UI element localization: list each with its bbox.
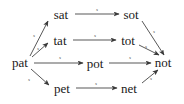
node-not[interactable]: not: [155, 56, 172, 69]
edge-label-pat-pot: s: [59, 55, 61, 60]
graph-edges-canvas: [0, 0, 184, 104]
node-sat[interactable]: sat: [54, 8, 68, 21]
node-pot[interactable]: pot: [87, 57, 104, 70]
word-transformation-graph: pat sat tat pot pet sot tot net not s s …: [0, 0, 184, 104]
edge-pat-tat: [32, 43, 48, 57]
edge-label-pet-net: s: [95, 81, 97, 86]
edge-label-pat-sat: s: [33, 33, 35, 38]
edge-label-tot-not: s: [145, 44, 147, 49]
node-net[interactable]: net: [121, 82, 137, 95]
edge-tot-not: [139, 45, 159, 55]
node-pat[interactable]: pat: [12, 56, 28, 69]
node-sot[interactable]: sot: [123, 8, 138, 21]
edge-label-pot-not: s: [129, 55, 131, 60]
edge-label-net-not: s: [150, 76, 152, 81]
edge-label-sot-not: s: [153, 29, 155, 34]
edge-label-pat-pet: s: [28, 77, 30, 82]
edge-label-sat-sot: s: [96, 7, 98, 12]
node-tot[interactable]: tot: [121, 34, 135, 47]
node-tat[interactable]: tat: [54, 34, 67, 47]
edge-label-tat-tot: s: [94, 33, 96, 38]
edge-pat-pet: [31, 69, 49, 85]
node-pet[interactable]: pet: [54, 82, 70, 95]
edge-sot-not: [142, 21, 164, 55]
edge-label-pat-tat: s: [37, 46, 39, 51]
